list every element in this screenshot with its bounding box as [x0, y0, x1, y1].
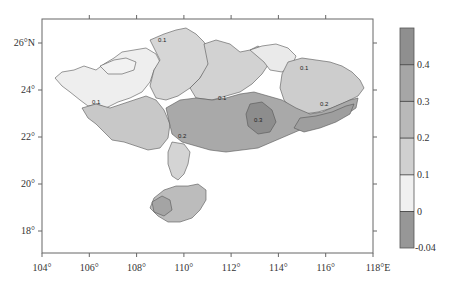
y-tick-label: 18° [21, 225, 35, 236]
colorbar-bin [400, 28, 414, 65]
x-tick-label: 116° [316, 262, 335, 273]
contour-label: 0.1 [218, 95, 227, 101]
x-tick-label: 118°E [366, 262, 391, 273]
colorbar: 0.4 0.3 0.2 0.1 0 -0.04 [400, 28, 436, 253]
colorbar-bin [400, 101, 414, 138]
contour-label: 0.1 [92, 99, 101, 105]
contour-label: 0.2 [320, 101, 329, 107]
contour-label: 0.3 [254, 117, 263, 123]
colorbar-label: 0.1 [417, 169, 430, 180]
colorbar-bin [400, 138, 414, 175]
colorbar-label: -0.04 [415, 242, 436, 253]
y-tick-label: 20° [21, 178, 35, 189]
map-regions [55, 28, 364, 222]
colorbar-bin [400, 175, 414, 212]
x-tick-label: 114° [269, 262, 288, 273]
colorbar-label: 0.3 [417, 96, 430, 107]
colorbar-bin [400, 212, 414, 249]
contour-label: 0.1 [300, 65, 309, 71]
colorbar-label: 0.4 [417, 59, 430, 70]
x-tick-label: 112° [222, 262, 241, 273]
colorbar-label: 0.2 [417, 132, 430, 143]
map-figure: 0.1 0.1 0.1 0.1 0.2 0.2 0.3 104° 106° 10… [0, 0, 453, 283]
region-leizhou-peninsula [168, 142, 190, 180]
x-tick-label: 108° [127, 262, 146, 273]
y-tick-labels: 26°N 24° 22° 20° 18° [14, 37, 35, 236]
x-tick-label: 110° [175, 262, 194, 273]
colorbar-bin [400, 65, 414, 102]
y-tick-label: 26°N [14, 37, 35, 48]
contour-label: 0.1 [158, 37, 167, 43]
colorbar-label: 0 [417, 206, 422, 217]
y-tick-label: 22° [21, 131, 35, 142]
x-tick-label: 106° [80, 262, 99, 273]
contour-label: 0.2 [178, 133, 187, 139]
x-tick-label: 104° [33, 262, 52, 273]
y-tick-label: 24° [21, 84, 35, 95]
x-tick-labels: 104° 106° 108° 110° 112° 114° 116° 118°E [33, 262, 391, 273]
